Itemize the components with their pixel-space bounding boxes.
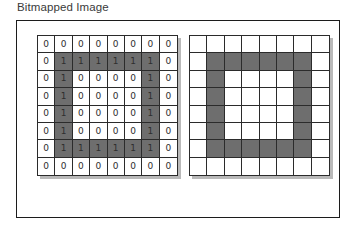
cell-digit: 0 <box>61 162 67 171</box>
cell-digit: 0 <box>78 92 84 101</box>
grid-cell: 0 <box>125 158 142 175</box>
grid-cell: 0 <box>38 140 55 157</box>
grid-cell <box>260 53 277 70</box>
cell-digit: 0 <box>61 40 67 49</box>
grid-cell <box>260 158 277 175</box>
grid-cell: 0 <box>73 158 90 175</box>
rendered-pixel-grid-cells <box>189 35 330 176</box>
grid-cell: 0 <box>108 88 125 105</box>
grid-cell <box>294 36 311 53</box>
cell-digit: 0 <box>165 57 171 66</box>
cell-digit: 1 <box>113 144 119 153</box>
bit-value-grid: 0000000001111110010000100100001001000010… <box>37 35 178 176</box>
cell-digit: 0 <box>113 127 119 136</box>
grid-cell: 0 <box>38 123 55 140</box>
grid-cell: 1 <box>55 123 72 140</box>
grid-cell: 1 <box>142 53 159 70</box>
cell-digit: 0 <box>165 144 171 153</box>
cell-digit: 0 <box>43 57 49 66</box>
cell-digit: 0 <box>78 127 84 136</box>
grid-cell <box>190 53 207 70</box>
cell-digit: 0 <box>95 162 101 171</box>
grid-cell <box>260 123 277 140</box>
cell-digit: 0 <box>130 127 136 136</box>
cell-digit: 0 <box>165 109 171 118</box>
grid-cell: 0 <box>90 88 107 105</box>
grid-cell <box>294 53 311 70</box>
grid-cell <box>260 71 277 88</box>
cell-digit: 1 <box>95 144 101 153</box>
grid-cell <box>277 88 294 105</box>
grid-cell: 0 <box>73 71 90 88</box>
cell-digit: 0 <box>165 162 171 171</box>
cell-digit: 0 <box>78 74 84 83</box>
grid-cell <box>225 53 242 70</box>
cell-digit: 1 <box>148 127 154 136</box>
cell-digit: 0 <box>43 40 49 49</box>
grid-cell <box>225 140 242 157</box>
grid-cell: 1 <box>73 140 90 157</box>
grid-cell <box>225 71 242 88</box>
cell-digit: 1 <box>148 144 154 153</box>
cell-digit: 0 <box>78 109 84 118</box>
cell-digit: 1 <box>61 74 67 83</box>
grid-cell: 0 <box>160 140 177 157</box>
grid-cell <box>260 106 277 123</box>
grid-cell <box>190 123 207 140</box>
grid-cell: 0 <box>125 71 142 88</box>
grid-cell <box>312 88 329 105</box>
grid-cell: 0 <box>108 106 125 123</box>
grid-cell <box>294 140 311 157</box>
cell-digit: 0 <box>78 162 84 171</box>
cell-digit: 0 <box>130 40 136 49</box>
grid-cell <box>207 88 224 105</box>
grid-cell <box>207 71 224 88</box>
grid-cell: 0 <box>90 106 107 123</box>
cell-digit: 1 <box>61 109 67 118</box>
grid-cell: 1 <box>142 140 159 157</box>
grid-cell: 0 <box>38 36 55 53</box>
cell-digit: 0 <box>113 92 119 101</box>
grid-cell: 0 <box>90 123 107 140</box>
cell-digit: 1 <box>95 57 101 66</box>
grid-cell <box>294 71 311 88</box>
grid-cell: 1 <box>108 53 125 70</box>
cell-digit: 0 <box>95 127 101 136</box>
cell-digit: 0 <box>95 109 101 118</box>
cell-digit: 0 <box>43 162 49 171</box>
grid-cell <box>190 36 207 53</box>
grid-cell: 1 <box>142 88 159 105</box>
grid-cell: 0 <box>73 36 90 53</box>
grid-cell: 1 <box>90 53 107 70</box>
grid-cell: 0 <box>160 158 177 175</box>
cell-digit: 0 <box>113 162 119 171</box>
cell-digit: 0 <box>43 92 49 101</box>
grid-cell <box>312 140 329 157</box>
page-title: Bitmapped Image <box>17 1 109 13</box>
figure-frame: 0000000001111110010000100100001001000010… <box>16 20 340 218</box>
grid-cell <box>225 106 242 123</box>
grid-cell: 0 <box>108 71 125 88</box>
grid-cell: 0 <box>73 88 90 105</box>
grid-cell <box>207 106 224 123</box>
grid-cell <box>190 140 207 157</box>
grid-cell <box>207 123 224 140</box>
grid-cell <box>312 123 329 140</box>
cell-digit: 1 <box>61 92 67 101</box>
cell-digit: 0 <box>148 162 154 171</box>
grid-cell: 1 <box>55 106 72 123</box>
bit-value-grid-cells: 0000000001111110010000100100001001000010… <box>37 35 178 176</box>
cell-digit: 1 <box>130 144 136 153</box>
grid-cell: 0 <box>125 123 142 140</box>
rendered-pixel-grid <box>189 35 330 176</box>
grid-cell <box>242 71 259 88</box>
grid-cell <box>207 36 224 53</box>
grid-cell: 1 <box>142 106 159 123</box>
grid-cell: 0 <box>55 36 72 53</box>
grid-cell <box>242 158 259 175</box>
cell-digit: 0 <box>165 127 171 136</box>
grid-cell <box>312 158 329 175</box>
cell-digit: 0 <box>78 40 84 49</box>
grid-cell <box>207 140 224 157</box>
grid-cell <box>277 71 294 88</box>
